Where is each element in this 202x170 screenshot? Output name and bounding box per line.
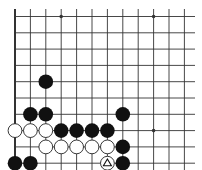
- black-stone: [116, 156, 131, 170]
- black-stone: [116, 140, 131, 155]
- black-stone: [54, 123, 69, 138]
- hoshi-point-icon: [59, 15, 63, 19]
- white-stone: [54, 140, 68, 154]
- black-stone: [8, 156, 23, 170]
- black-stone: [23, 107, 38, 122]
- black-stone: [39, 74, 54, 89]
- black-stone: [23, 156, 38, 170]
- hoshi-point-icon: [152, 15, 156, 19]
- go-board: [0, 0, 202, 170]
- black-stone: [116, 107, 131, 122]
- white-stone: [39, 140, 53, 154]
- hoshi-point-icon: [152, 129, 156, 133]
- white-stone: [8, 124, 22, 138]
- stones: [8, 74, 130, 170]
- white-stone: [70, 140, 84, 154]
- white-stone: [101, 140, 115, 154]
- white-stone: [39, 124, 53, 138]
- white-stone: [85, 140, 99, 154]
- black-stone: [100, 123, 115, 138]
- white-stone: [24, 124, 38, 138]
- black-stone: [39, 107, 54, 122]
- black-stone: [69, 123, 84, 138]
- black-stone: [85, 123, 100, 138]
